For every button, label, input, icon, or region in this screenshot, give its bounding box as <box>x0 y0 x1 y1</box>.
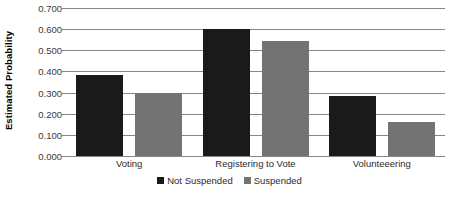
legend: Not SuspendedSuspended <box>0 175 459 186</box>
x-axis-category-label: Voting <box>116 158 142 169</box>
legend-label: Not Suspended <box>167 175 233 186</box>
x-axis-category-label: Volunteeering <box>353 158 411 169</box>
plot-area <box>66 8 445 156</box>
x-axis-category-labels: VotingRegistering to VoteVolunteeering <box>66 158 445 173</box>
legend-swatch-icon <box>157 177 164 184</box>
legend-label: Suspended <box>254 175 302 186</box>
bars <box>66 8 445 156</box>
legend-item[interactable]: Not Suspended <box>157 175 233 186</box>
bar <box>388 122 435 156</box>
bar <box>203 29 250 156</box>
y-axis-title-text: Estimated Probability <box>4 30 15 129</box>
bar <box>329 96 376 156</box>
y-axis-title: Estimated Probability <box>0 0 18 160</box>
y-axis-tick-mark <box>61 156 66 157</box>
y-axis-tick-label: 0.700 <box>38 3 62 14</box>
y-axis-tick-labels: 0.0000.1000.2000.3000.4000.5000.6000.700 <box>18 8 66 156</box>
bar <box>135 93 182 156</box>
y-axis-tick-label: 0.500 <box>38 45 62 56</box>
bar <box>76 75 123 156</box>
y-axis-tick-label: 0.400 <box>38 66 62 77</box>
y-axis-tick-label: 0.100 <box>38 129 62 140</box>
y-axis-tick-label: 0.000 <box>38 151 62 162</box>
y-axis-tick-label: 0.600 <box>38 24 62 35</box>
y-axis-tick-label: 0.200 <box>38 108 62 119</box>
bar-chart: Estimated Probability 0.0000.1000.2000.3… <box>0 0 459 197</box>
legend-item[interactable]: Suspended <box>244 175 302 186</box>
bar <box>262 41 309 156</box>
y-axis-tick-label: 0.300 <box>38 87 62 98</box>
legend-swatch-icon <box>244 177 251 184</box>
gridline <box>66 156 445 157</box>
x-axis-category-label: Registering to Vote <box>215 158 295 169</box>
